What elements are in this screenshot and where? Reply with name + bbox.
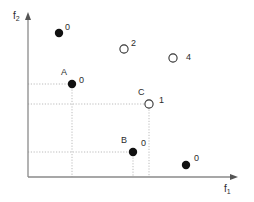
x-axis-label: f1 [224, 184, 231, 194]
data-point-value-label: 1 [159, 96, 164, 105]
data-point-filled[interactable] [55, 29, 63, 37]
guide-lines-group [28, 84, 149, 177]
data-point-filled[interactable] [182, 161, 190, 169]
data-point-name-label: C [138, 88, 145, 97]
data-point-filled[interactable] [68, 80, 76, 88]
scatter-plot-figure: f2 f1 0240A1C0B0 [0, 0, 254, 202]
data-point-value-label: 0 [79, 76, 84, 85]
data-point-name-label: A [61, 68, 67, 77]
data-point-value-label: 0 [141, 139, 146, 148]
y-axis-label: f2 [13, 11, 20, 21]
plot-canvas [0, 0, 254, 202]
data-point-value-label: 0 [194, 154, 199, 163]
y-axis-label-subscript: 2 [16, 15, 20, 22]
x-axis-arrowhead [230, 174, 238, 180]
data-point-open[interactable] [145, 100, 153, 108]
data-point-value-label: 2 [131, 39, 136, 48]
data-point-open[interactable] [120, 45, 128, 53]
data-point-value-label: 0 [65, 23, 70, 32]
x-axis-label-subscript: 1 [227, 188, 231, 195]
data-point-filled[interactable] [129, 148, 137, 156]
data-markers-group [55, 29, 190, 169]
data-point-name-label: B [121, 136, 127, 145]
data-point-value-label: 4 [186, 53, 191, 62]
data-point-open[interactable] [169, 54, 177, 62]
y-axis-arrowhead [25, 12, 31, 20]
